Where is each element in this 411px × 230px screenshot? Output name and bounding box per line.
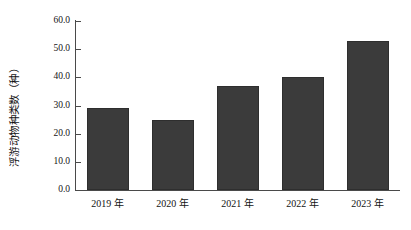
- y-tick-mark: [76, 190, 81, 191]
- y-tick-label-text: 60.0: [30, 16, 70, 26]
- y-tick-label: 50.0: [26, 44, 70, 54]
- y-tick-label-text: 0.0: [30, 185, 70, 195]
- bar: [347, 41, 389, 190]
- y-tick-label: 60.0: [26, 16, 70, 26]
- bar: [87, 108, 129, 190]
- bar: [217, 86, 259, 190]
- y-tick-label: 20.0: [26, 129, 70, 139]
- y-tick-label: 0.0: [26, 185, 70, 195]
- bar-chart: 浮游动物种类数（种） 0.010.020.030.040.050.060.0 2…: [0, 0, 411, 230]
- y-tick-label-text: 40.0: [30, 72, 70, 82]
- y-tick-label-text: 50.0: [30, 44, 70, 54]
- y-tick-label: 40.0: [26, 72, 70, 82]
- bar: [282, 77, 324, 190]
- y-tick-label: 30.0: [26, 101, 70, 111]
- x-axis-line: [75, 190, 400, 191]
- x-tick-label: 2023 年: [323, 198, 411, 209]
- y-tick-label: 10.0: [26, 157, 70, 167]
- y-axis-title: 浮游动物种类数（种）: [0, 0, 26, 230]
- y-tick-label-text: 10.0: [30, 157, 70, 167]
- bars-group: [75, 21, 400, 190]
- y-tick-label-text: 20.0: [30, 129, 70, 139]
- bar: [152, 120, 194, 190]
- y-tick-label-text: 30.0: [30, 101, 70, 111]
